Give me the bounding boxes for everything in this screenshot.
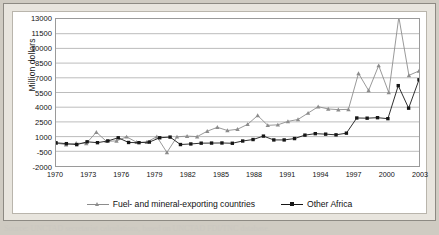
y-tick-label: 5500 [18,88,52,97]
y-tick-label: 7000 [18,73,52,82]
caption-strip: Source: UNCTAD secretariat calculations,… [0,222,439,235]
figure-frame-outer: Million dollars -2000-500100025004000550… [3,3,436,221]
x-tick-label: 1976 [113,170,129,179]
y-tick-label: 4000 [18,103,52,112]
plot-area [55,18,420,167]
x-tick-label: 1973 [80,170,96,179]
y-tick-label: -500 [18,148,52,157]
figure-caption: Source: UNCTAD secretariat calculations,… [4,224,270,233]
legend-entry[interactable]: Fuel- and mineral-exporting countries [87,199,255,209]
chart-legend: Fuel- and mineral-exporting countriesOth… [13,199,426,209]
series-1 [56,19,419,154]
x-tick-label: 1997 [346,170,362,179]
x-tick-label: 1985 [213,170,229,179]
square-marker [281,200,303,209]
x-tick-label: 1991 [279,170,295,179]
plot-svg [56,19,419,166]
legend-entry[interactable]: Other Africa [281,199,352,209]
y-tick-label: 8500 [18,58,52,67]
x-tick-label: 1994 [312,170,328,179]
figure-container: Million dollars -2000-500100025004000550… [0,0,439,235]
y-axis-tick-labels: -2000-5001000250040005500700085001000011… [13,12,52,213]
y-tick-label: 11500 [18,28,52,37]
figure-frame-inner: Million dollars -2000-500100025004000550… [12,11,427,214]
x-tick-label: 1982 [180,170,196,179]
legend-label: Other Africa [307,199,352,209]
series-2 [56,78,419,146]
x-tick-label: 2000 [379,170,395,179]
x-tick-label: 1970 [47,170,63,179]
y-tick-label: 2500 [18,118,52,127]
chart-area: Million dollars -2000-500100025004000550… [13,12,426,213]
triangle-marker [87,200,109,209]
y-tick-label: 1000 [18,133,52,142]
y-tick-label: 13000 [18,14,52,23]
legend-label: Fuel- and mineral-exporting countries [113,199,255,209]
x-axis-tick-labels: 1970197319761979198219851988199119941997… [55,168,420,182]
y-tick-label: 10000 [18,43,52,52]
x-tick-label: 1988 [246,170,262,179]
x-tick-label: 2003 [412,170,428,179]
x-tick-label: 1979 [147,170,163,179]
